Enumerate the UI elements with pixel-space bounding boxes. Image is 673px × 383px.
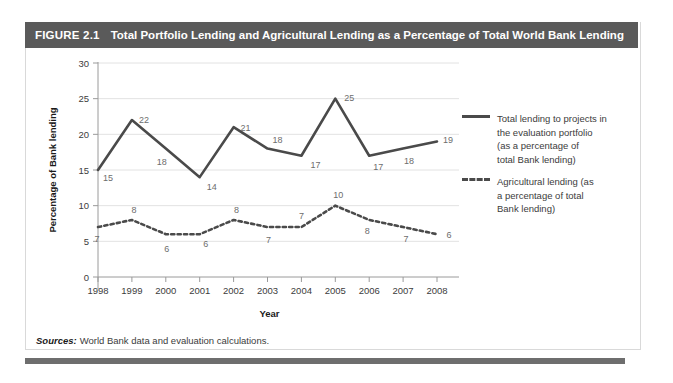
legend-item-line: total Bank lending) [497, 153, 607, 167]
sources-note: Sources:World Bank data and evaluation c… [36, 335, 269, 346]
legend-item-line: Bank lending) [497, 202, 594, 216]
legend-item: Agricultural lending (asa percentage of … [462, 175, 627, 216]
legend-item-label: Agricultural lending (asa percentage of … [497, 175, 594, 216]
sources-text: World Bank data and evaluation calculati… [80, 335, 269, 346]
legend-item-label: Total lending to projects inthe evaluati… [497, 112, 607, 166]
figure-number: FIGURE 2.1 [35, 29, 100, 41]
legend-item: Total lending to projects inthe evaluati… [462, 112, 627, 166]
chart-legend: Total lending to projects inthe evaluati… [462, 112, 627, 225]
figure-title: Total Portfolio Lending and Agricultural… [111, 29, 624, 41]
legend-item-line: Total lending to projects in [497, 112, 607, 126]
sources-label: Sources: [36, 335, 77, 346]
bottom-rule [25, 358, 625, 364]
legend-item-line: Agricultural lending (as [497, 175, 594, 189]
legend-swatch-dashed-icon [462, 178, 490, 190]
legend-swatch-solid-icon [462, 115, 490, 127]
figure-header: FIGURE 2.1 Total Portfolio Lending and A… [25, 22, 638, 48]
legend-item-line: the evaluation portfolio [497, 126, 607, 140]
legend-item-line: a percentage of total [497, 189, 594, 203]
legend-item-line: (as a percentage of [497, 139, 607, 153]
